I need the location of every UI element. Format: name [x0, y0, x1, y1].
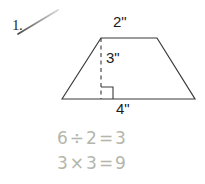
trapezoid-outline — [62, 38, 195, 99]
student-work-line-1: 6÷2=3 — [57, 130, 128, 147]
trapezoid-figure — [0, 0, 205, 124]
worksheet-canvas: 1. 2" 3" 4" 6÷2=3 3×3=9 — [0, 0, 205, 184]
height-length-label: 3" — [106, 50, 120, 65]
right-angle-marker — [101, 87, 113, 99]
bottom-side-length-label: 4" — [116, 101, 130, 116]
student-work-line-2: 3×3=9 — [57, 155, 128, 172]
top-side-length-label: 2" — [113, 14, 127, 29]
